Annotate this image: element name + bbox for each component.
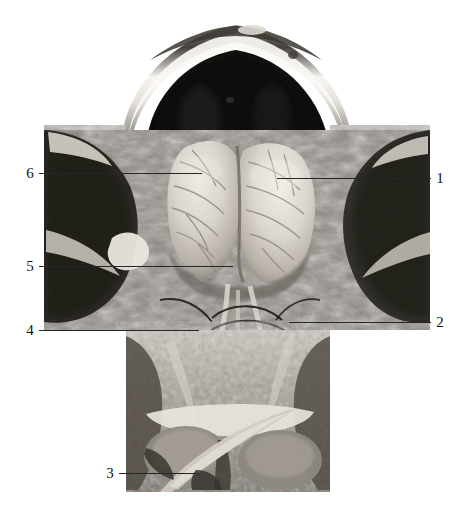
label-4-leader-line <box>39 330 199 331</box>
label-6-number: 6 <box>24 166 36 181</box>
label-6-leader-line <box>39 173 202 174</box>
label-5-leader-line <box>39 266 233 267</box>
bone-notch <box>238 25 266 35</box>
bone-foramen <box>288 51 298 59</box>
label-2[interactable]: 2 <box>286 312 446 332</box>
label-6[interactable]: 6 <box>24 163 205 183</box>
label-4[interactable]: 4 <box>24 320 202 340</box>
label-4-number: 4 <box>24 323 36 338</box>
label-1-leader-line <box>277 178 431 179</box>
label-1-number: 1 <box>434 171 446 186</box>
specimen-photograph <box>0 0 466 509</box>
anatomy-figure: 6 5 4 3 1 2 <box>0 0 466 509</box>
label-3[interactable]: 3 <box>104 463 202 483</box>
label-5[interactable]: 5 <box>24 256 236 276</box>
label-2-number: 2 <box>434 315 446 330</box>
cavity-speck <box>226 97 234 103</box>
label-1[interactable]: 1 <box>274 168 446 188</box>
label-3-number: 3 <box>104 466 116 481</box>
specimen-photograph-canvas <box>0 0 466 509</box>
label-3-leader-line <box>119 473 199 474</box>
label-5-number: 5 <box>24 259 36 274</box>
label-2-leader-line <box>289 322 431 323</box>
